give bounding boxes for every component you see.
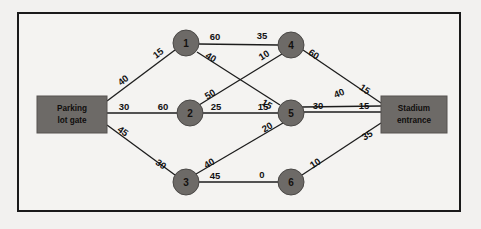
terminal-label-line1: Stadium: [398, 104, 430, 113]
edge-weight-label: 30: [313, 100, 324, 111]
edge-weight-label: 15: [359, 100, 370, 111]
edge-weight-label: 10: [257, 48, 272, 63]
edge-weight-label: 35: [360, 127, 375, 142]
graph-node-2: 2: [177, 100, 203, 126]
edge-source-to-1: [107, 50, 175, 101]
graph-node-1: 1: [173, 30, 199, 56]
edge-weight-label: 40: [202, 156, 217, 171]
terminal-label-line2: entrance: [397, 116, 432, 125]
node-label: 3: [183, 177, 189, 188]
edge-weight-label: 60: [158, 101, 169, 112]
terminal-box: [381, 96, 447, 133]
node-label: 1: [183, 38, 189, 49]
edge-weight-label: 10: [308, 156, 323, 171]
terminals-layer: Parkinglot gateStadiumentrance: [37, 96, 447, 133]
graph-node-4: 4: [278, 32, 304, 58]
edge-weight-label: 45: [115, 123, 131, 139]
node-label: 6: [288, 177, 294, 188]
graph-node-6: 6: [278, 169, 304, 195]
edge-weight-label: 60: [210, 31, 221, 42]
edge-weight-label: 0: [259, 169, 264, 180]
network-flow-diagram: Parkinglot gateStadiumentrance 142536 40…: [0, 0, 481, 229]
edge-weight-label: 25: [211, 101, 222, 112]
terminal-parking-lot-gate: Parkinglot gate: [37, 96, 107, 133]
terminal-box: [37, 96, 107, 133]
edge-weight-label: 35: [257, 30, 268, 41]
edge-1-to-4: [199, 44, 278, 45]
graph-node-5: 5: [278, 100, 304, 126]
edge-weight-label: 20: [260, 120, 275, 135]
edge-weight-label: 40: [204, 50, 219, 65]
terminal-label-line2: lot gate: [57, 116, 87, 125]
terminal-stadium-entrance: Stadiumentrance: [381, 96, 447, 133]
node-label: 5: [288, 108, 294, 119]
edge-weight-label: 45: [210, 170, 221, 181]
edge-weight-label: 50: [203, 87, 218, 102]
edge-weight-label: 15: [258, 101, 269, 112]
edge-weight-label: 15: [358, 82, 373, 97]
node-label: 2: [187, 108, 193, 119]
terminal-label-line1: Parking: [57, 104, 87, 113]
node-label: 4: [288, 40, 294, 51]
edge-weight-label: 40: [332, 86, 346, 100]
edge-weight-label: 30: [119, 101, 130, 112]
edge-weights-layer: 4015306045306035401550102515402045060153…: [115, 30, 375, 181]
graph-node-3: 3: [173, 169, 199, 195]
edges-layer: [107, 44, 381, 182]
edge-weight-label: 60: [307, 47, 322, 62]
